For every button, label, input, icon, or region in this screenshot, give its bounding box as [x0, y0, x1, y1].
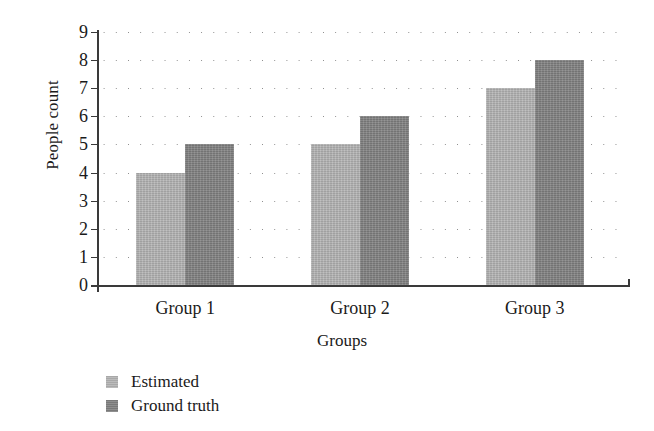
y-axis-tick-mark	[91, 229, 98, 230]
y-axis-tick-mark	[91, 257, 98, 258]
x-axis-category-label: Group 1	[115, 298, 255, 319]
y-axis-tick-mark	[91, 88, 98, 89]
y-axis-title: People count	[43, 25, 63, 225]
y-axis-tick-label: 0	[62, 276, 88, 294]
bar-ground-truth	[185, 144, 234, 285]
y-axis-tick-label: 4	[62, 164, 88, 182]
legend-item: Estimated	[106, 370, 219, 394]
x-axis-line	[91, 285, 630, 287]
gridline	[98, 32, 622, 33]
legend-label: Ground truth	[131, 396, 219, 416]
y-axis-tick-mark	[91, 173, 98, 174]
bar-ground-truth	[535, 60, 584, 285]
legend-swatch-estimated	[106, 376, 118, 388]
y-axis-tick-label: 3	[62, 192, 88, 210]
x-axis-category-label: Group 2	[290, 298, 430, 319]
bar-estimated	[311, 144, 360, 285]
x-axis-category-label: Group 3	[465, 298, 605, 319]
y-axis-tick-label: 2	[62, 220, 88, 238]
legend-label: Estimated	[131, 372, 199, 392]
y-axis-tick-label: 6	[62, 107, 88, 125]
y-axis-tick-mark	[91, 32, 98, 33]
plot-area	[98, 32, 622, 285]
bar-estimated	[136, 173, 185, 285]
y-axis-tick-mark	[91, 144, 98, 145]
bar-estimated	[486, 88, 535, 285]
bar-ground-truth	[360, 116, 409, 285]
y-axis-tick-label: 7	[62, 79, 88, 97]
y-axis-tick-label: 9	[62, 23, 88, 41]
x-axis-title-text: Groups	[317, 331, 367, 351]
chart-legend: EstimatedGround truth	[106, 370, 219, 418]
y-axis-tick-mark	[91, 116, 98, 117]
bar-chart-figure: People count 0123456789 Group 1Group 2Gr…	[0, 0, 654, 431]
legend-swatch-ground-truth	[106, 400, 118, 412]
x-axis-title: Groups	[0, 331, 654, 351]
y-axis-tick-label: 8	[62, 51, 88, 69]
y-axis-tick-label: 1	[62, 248, 88, 266]
y-axis-tick-mark	[91, 201, 98, 202]
legend-item: Ground truth	[106, 394, 219, 418]
y-axis-tick-mark	[91, 285, 98, 286]
y-axis-tick-label: 5	[62, 135, 88, 153]
y-axis-tick-mark	[91, 60, 98, 61]
x-axis-end-cap	[628, 279, 630, 287]
